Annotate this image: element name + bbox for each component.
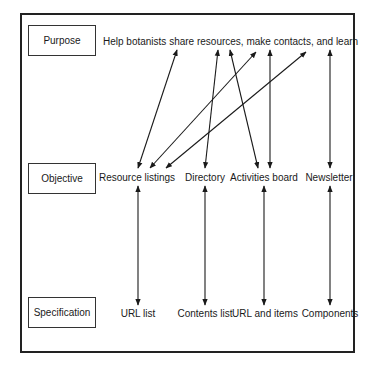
arrow-share-resource-listings [138, 50, 177, 168]
arrow-and-resource-listings [166, 52, 306, 168]
arrow-resources-activities [230, 50, 258, 168]
arrow-make-resource-listings [150, 52, 256, 168]
connector-arrows [0, 0, 374, 369]
arrow-resources-directory [205, 50, 218, 168]
